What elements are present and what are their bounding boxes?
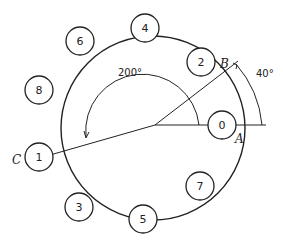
svg-text:4: 4 (142, 22, 149, 35)
node-6: 6 (66, 27, 94, 55)
node-0: 0 (208, 111, 236, 139)
node-7: 7 (186, 172, 214, 200)
angle-label-200: 200° (118, 67, 142, 78)
point-label-b: B (219, 57, 229, 71)
svg-text:3: 3 (76, 201, 83, 214)
ring-diagram: 0 2 4 6 8 1 3 5 7 A B C 200° 40° (0, 0, 283, 248)
svg-text:8: 8 (36, 84, 43, 97)
node-5: 5 (129, 205, 157, 233)
node-8: 8 (25, 76, 53, 104)
svg-text:6: 6 (77, 35, 84, 48)
arrowhead-200 (84, 131, 89, 138)
node-1: 1 (25, 143, 53, 171)
node-2: 2 (187, 48, 215, 76)
point-label-c: C (12, 153, 21, 167)
svg-text:2: 2 (198, 56, 205, 69)
radial-line-c (50, 125, 155, 155)
angle-label-40: 40° (256, 68, 274, 79)
node-3: 3 (65, 193, 93, 221)
svg-text:1: 1 (36, 151, 43, 164)
svg-text:0: 0 (219, 119, 226, 132)
svg-text:7: 7 (197, 180, 204, 193)
svg-text:5: 5 (140, 213, 147, 226)
node-4: 4 (131, 14, 159, 42)
point-label-a: A (234, 132, 244, 146)
angle-arc-200 (86, 74, 199, 137)
